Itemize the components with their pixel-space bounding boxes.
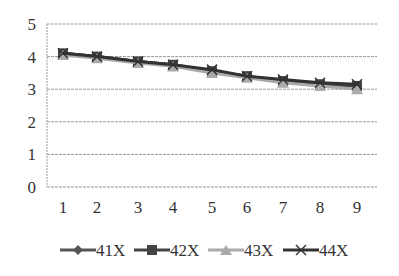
legend: 41X42X43X44X (60, 241, 348, 260)
x-tick-label: 6 (243, 198, 252, 217)
y-tick-label: 2 (28, 113, 37, 132)
x-tick-label: 3 (134, 198, 143, 217)
x-tick-label: 9 (353, 198, 362, 217)
legend-item-42X: 42X (134, 241, 199, 260)
legend-label: 42X (170, 241, 199, 260)
x-tick-label: 8 (316, 198, 325, 217)
legend-item-41X: 41X (60, 241, 125, 260)
series-44X (58, 48, 362, 89)
legend-label: 43X (244, 241, 273, 260)
x-tick-label: 2 (93, 198, 102, 217)
gridlines (47, 24, 377, 187)
series-lines (57, 48, 363, 94)
x-tick-label: 4 (169, 198, 178, 217)
y-tick-label: 5 (28, 15, 37, 34)
x-tick-label: 7 (279, 198, 288, 217)
y-tick-label: 3 (28, 80, 37, 99)
line-chart: 012345 123456789 41X42X43X44X (0, 0, 399, 276)
legend-item-43X: 43X (208, 241, 273, 260)
legend-label: 41X (96, 241, 125, 260)
y-tick-label: 1 (28, 145, 37, 164)
y-tick-label: 4 (28, 48, 37, 67)
x-tick-label: 5 (208, 198, 217, 217)
y-tick-label: 0 (28, 178, 37, 197)
square-marker (147, 245, 157, 255)
y-axis: 012345 (28, 15, 48, 197)
legend-label: 44X (319, 241, 348, 260)
x-tick-label: 1 (59, 198, 68, 217)
diamond-marker (73, 245, 83, 255)
x-axis: 123456789 (59, 198, 362, 217)
legend-item-44X: 44X (283, 241, 348, 260)
